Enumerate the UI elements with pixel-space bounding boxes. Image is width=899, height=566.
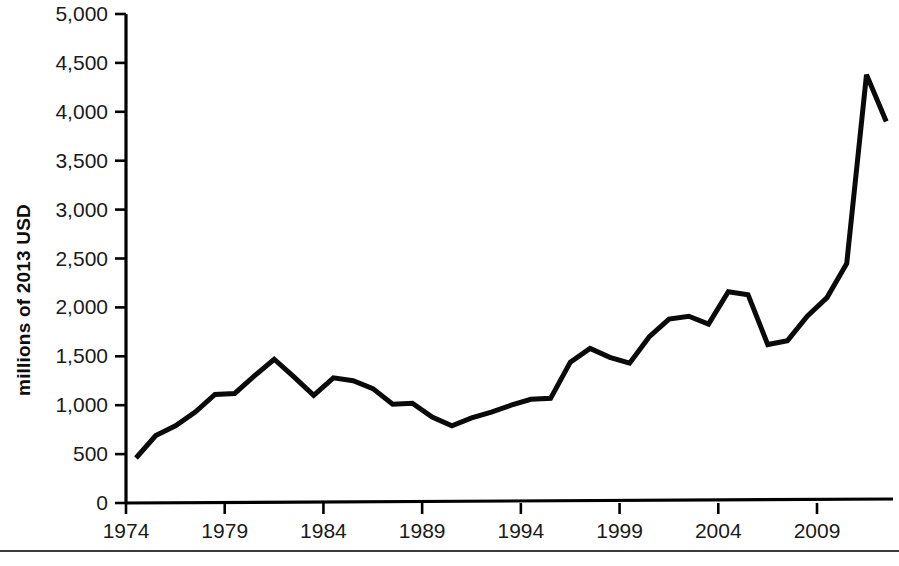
x-axis-line	[125, 499, 893, 503]
y-tick-label: 4,000	[55, 100, 108, 123]
data-series-line	[136, 75, 886, 458]
x-tick-label: 1999	[596, 519, 643, 542]
y-tick-label: 1,000	[55, 393, 108, 416]
x-tick-label: 1989	[399, 519, 446, 542]
y-tick-label: 3,500	[55, 149, 108, 172]
y-tick-label: 1,500	[55, 344, 108, 367]
y-axis-title: millions of 2013 USD	[13, 204, 34, 396]
y-tick-label: 4,500	[55, 51, 108, 74]
chart-figure: 05001,0001,5002,0002,5003,0003,5004,0004…	[0, 0, 899, 566]
x-tick-label: 1974	[103, 519, 150, 542]
y-axis-tick-labels: 05001,0001,5002,0002,5003,0003,5004,0004…	[55, 2, 108, 514]
x-axis-tick-marks	[126, 503, 817, 514]
line-chart-canvas: 05001,0001,5002,0002,5003,0003,5004,0004…	[0, 0, 899, 566]
y-tick-label: 500	[73, 442, 108, 465]
y-tick-label: 5,000	[55, 2, 108, 25]
y-tick-label: 2,500	[55, 247, 108, 270]
x-tick-label: 2009	[794, 519, 841, 542]
y-tick-label: 2,000	[55, 295, 108, 318]
x-tick-label: 1979	[201, 519, 248, 542]
x-tick-label: 1994	[497, 519, 544, 542]
y-tick-label: 3,000	[55, 198, 108, 221]
x-axis-tick-labels: 19741979198419891994199920042009	[103, 519, 841, 542]
x-tick-label: 2004	[695, 519, 742, 542]
y-tick-label: 0	[96, 491, 108, 514]
x-tick-label: 1984	[300, 519, 347, 542]
y-axis-tick-marks	[115, 14, 126, 503]
